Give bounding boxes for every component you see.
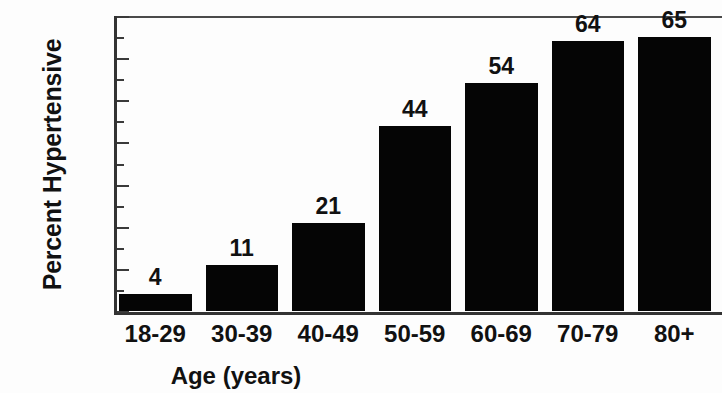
y-axis-major-tick: [117, 311, 129, 313]
y-axis-minor-tick: [117, 37, 124, 39]
plot-area: 010203040506070 4112144546465: [114, 16, 722, 314]
y-axis-major-tick: [117, 185, 129, 187]
y-axis-minor-tick: [117, 79, 124, 81]
x-axis-tick-label: 30-39: [211, 320, 272, 348]
y-axis-major-tick: [117, 16, 129, 18]
bar: 44: [379, 126, 452, 311]
bar-value-label: 65: [661, 7, 687, 34]
y-axis-minor-tick: [117, 206, 124, 208]
bar: 4: [119, 294, 192, 311]
bar: 65: [638, 37, 711, 311]
x-axis-tick-label: 40-49: [298, 320, 359, 348]
x-axis-tick-label: 50-59: [384, 320, 445, 348]
y-axis-major-tick: [117, 58, 129, 60]
y-axis-title: Percent Hypertensive: [38, 15, 67, 315]
y-axis-major-tick: [117, 142, 129, 144]
plot-frame-top: [114, 16, 722, 18]
x-axis-tick-label: 60-69: [471, 320, 532, 348]
x-axis-tick-label: 18-29: [125, 320, 186, 348]
bar-value-label: 54: [488, 53, 514, 80]
bar: 54: [465, 83, 538, 311]
bar-value-label: 64: [575, 11, 601, 38]
y-axis-minor-tick: [117, 248, 124, 250]
y-axis-minor-tick: [117, 164, 124, 166]
bar-value-label: 44: [402, 96, 428, 123]
y-axis-major-tick: [117, 100, 129, 102]
x-axis-tick-label: 80+: [654, 320, 695, 348]
bar-chart-figure: Percent Hypertensive 010203040506070 411…: [0, 0, 722, 393]
bar-value-label: 4: [149, 264, 162, 291]
x-axis-title: Age (years): [0, 362, 722, 390]
bar: 64: [552, 41, 625, 311]
bar: 11: [206, 265, 279, 311]
y-axis-major-tick: [117, 227, 129, 229]
bar-value-label: 21: [315, 193, 341, 220]
y-axis-major-tick: [117, 269, 129, 271]
x-axis-line: [114, 312, 722, 315]
x-axis-tick-label: 70-79: [557, 320, 618, 348]
bar: 21: [292, 223, 365, 312]
bar-value-label: 11: [230, 235, 254, 262]
y-axis-minor-tick: [117, 290, 124, 292]
y-axis-minor-tick: [117, 121, 124, 123]
